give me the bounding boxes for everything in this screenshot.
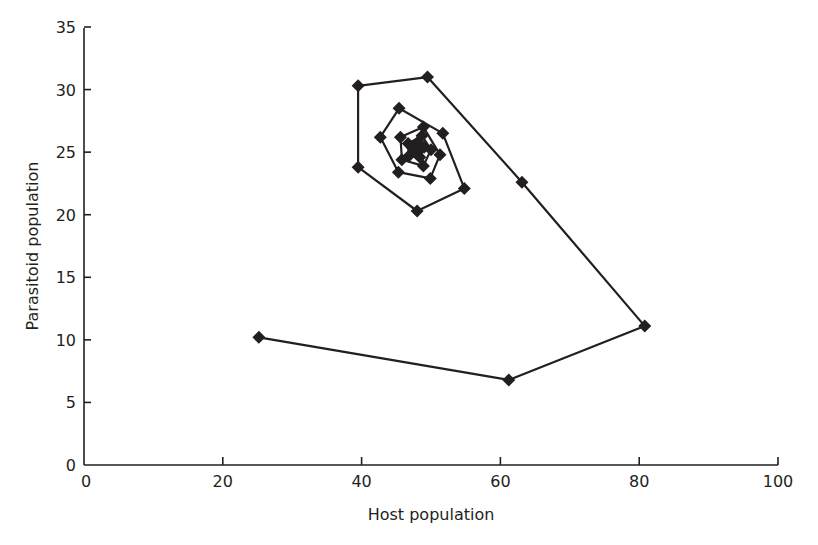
diamond-marker [392, 166, 405, 179]
y-tick-label: 30 [56, 81, 76, 100]
x-tick-label: 80 [629, 472, 649, 491]
diamond-marker [502, 373, 515, 386]
diamond-marker [393, 102, 406, 115]
y-ticks: 05101520253035 [56, 18, 91, 475]
y-tick-label: 0 [66, 456, 76, 475]
y-tick-label: 10 [56, 331, 76, 350]
trajectory-series [252, 71, 651, 387]
diamond-marker [352, 79, 365, 92]
y-tick-label: 5 [66, 393, 76, 412]
y-tick-label: 25 [56, 143, 76, 162]
x-tick-label: 0 [81, 472, 91, 491]
x-ticks: 020406080100 [81, 457, 793, 491]
diamond-marker [374, 131, 387, 144]
y-tick-label: 35 [56, 18, 76, 37]
trajectory-line [259, 77, 645, 380]
diamond-marker [252, 331, 265, 344]
x-tick-label: 40 [351, 472, 371, 491]
phase-plot: 05101520253035 020406080100 Host populat… [0, 0, 818, 545]
axes: 05101520253035 020406080100 [56, 18, 794, 491]
diamond-marker [424, 172, 437, 185]
diamond-marker [458, 182, 471, 195]
trajectory-markers [252, 71, 651, 387]
y-tick-label: 15 [56, 268, 76, 287]
x-tick-label: 60 [490, 472, 510, 491]
x-axis-title: Host population [368, 505, 495, 524]
y-tick-label: 20 [56, 206, 76, 225]
diamond-marker [436, 127, 449, 140]
x-tick-label: 100 [763, 472, 794, 491]
y-axis-title: Parasitoid population [23, 162, 42, 331]
x-tick-label: 20 [213, 472, 233, 491]
